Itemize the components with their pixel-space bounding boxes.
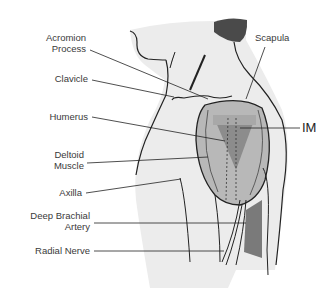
label-clavicle: Clavicle <box>24 73 88 84</box>
leader-clavicle <box>92 80 174 97</box>
label-scapula: Scapula <box>255 32 289 43</box>
acromion-line-1: Acromion <box>24 32 86 43</box>
deltoid-line-1: Deltoid <box>24 149 84 160</box>
triangle-top-band <box>213 115 256 125</box>
label-deltoid-muscle: Deltoid Muscle <box>24 149 84 171</box>
artery-line-1: Deep Brachial <box>10 210 90 221</box>
label-humerus: Humerus <box>24 111 88 122</box>
label-radial-nerve: Radial Nerve <box>10 245 90 256</box>
deltoid-line-2: Muscle <box>24 160 84 171</box>
label-deep-brachial-artery: Deep Brachial Artery <box>10 210 90 232</box>
artery-line-2: Artery <box>10 221 90 232</box>
label-axilla: Axilla <box>24 187 82 198</box>
acromion-line-2: Process <box>24 43 86 54</box>
label-im: IM <box>302 120 316 135</box>
label-acromion-process: Acromion Process <box>24 32 86 54</box>
